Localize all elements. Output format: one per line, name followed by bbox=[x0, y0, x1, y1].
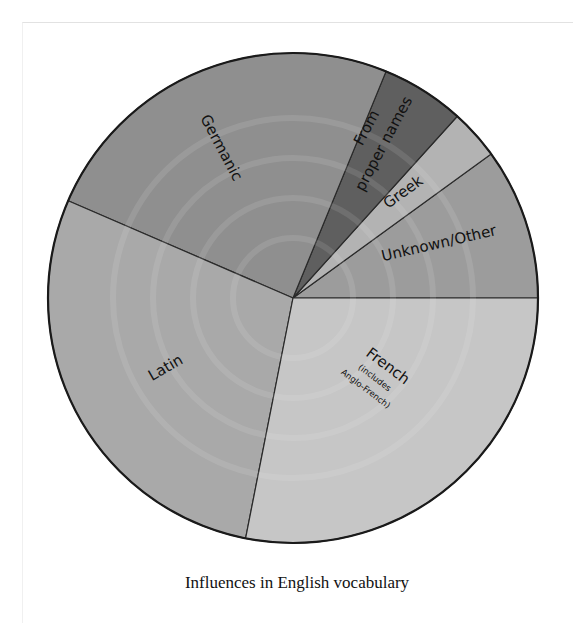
pie-slices bbox=[48, 53, 538, 543]
chart-caption: Influences in English vocabulary bbox=[0, 573, 580, 593]
pie-slice-french-includes-anglo-french bbox=[246, 298, 538, 543]
